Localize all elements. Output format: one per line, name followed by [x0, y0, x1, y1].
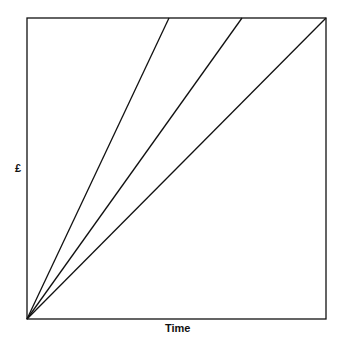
x-axis-label: Time — [165, 322, 190, 334]
y-axis-label: £ — [15, 162, 21, 174]
line-steep — [27, 18, 169, 319]
line-shallow — [27, 18, 326, 319]
line-medium — [27, 18, 242, 319]
diagram-canvas — [0, 0, 341, 348]
